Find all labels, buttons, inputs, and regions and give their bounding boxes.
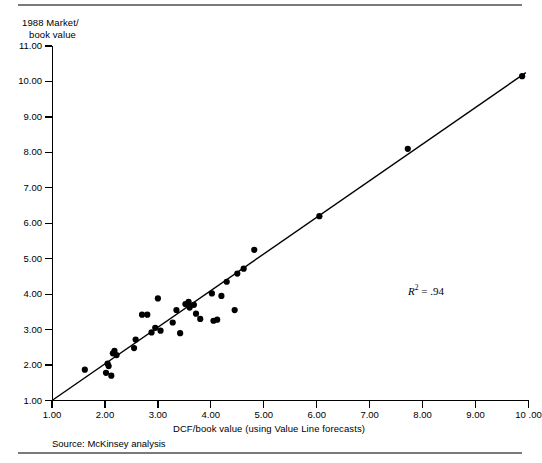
y-axis-tick xyxy=(45,187,52,188)
y-axis-tick-label: 3.00 xyxy=(0,325,42,335)
x-axis-tick-label: 5.00 xyxy=(255,410,274,420)
x-axis-tick-label: 7.00 xyxy=(360,410,379,420)
regression-trendline xyxy=(52,73,526,401)
r-squared-annotation: R2 = .94 xyxy=(408,283,444,297)
scatter-point xyxy=(193,311,199,317)
scatter-point xyxy=(316,213,322,219)
y-axis-tick xyxy=(45,223,52,224)
x-axis-tick xyxy=(475,401,476,408)
y-axis-tick xyxy=(45,294,52,295)
x-axis-tick-label: 2.00 xyxy=(96,410,115,420)
x-axis-tick xyxy=(422,401,423,408)
x-axis-tick xyxy=(104,401,105,408)
scatter-point xyxy=(251,247,257,253)
scatter-point xyxy=(131,345,137,351)
r-squared-symbol: R xyxy=(408,285,415,297)
y-axis-tick-label: 4.00 xyxy=(0,289,42,299)
x-axis-tick xyxy=(369,401,370,408)
scatter-point xyxy=(241,266,247,272)
y-axis-line xyxy=(52,46,53,401)
y-axis-tick-label: 10.00 xyxy=(0,76,42,86)
y-axis-tick-label: 11.00 xyxy=(0,41,42,51)
y-axis-title-line-1: 1988 Market/ xyxy=(22,17,79,29)
y-axis-tick xyxy=(45,329,52,330)
scatter-point xyxy=(405,146,411,152)
x-axis-tick-label: 1.00 xyxy=(43,410,62,420)
x-axis-line xyxy=(52,400,529,401)
scatter-point xyxy=(214,317,220,323)
y-axis-title: 1988 Market/book value xyxy=(22,17,79,41)
y-axis-tick-label: 8.00 xyxy=(0,147,42,157)
x-axis-tick-label: 9.00 xyxy=(466,410,485,420)
y-axis-tick xyxy=(45,116,52,117)
x-axis-tick xyxy=(51,401,52,408)
bottom-divider-rule xyxy=(18,452,522,454)
scatter-point xyxy=(113,352,119,358)
x-axis-tick-label: 4.00 xyxy=(202,410,221,420)
scatter-point xyxy=(103,370,109,376)
scatter-point xyxy=(185,299,191,305)
top-divider-rule xyxy=(18,4,522,6)
scatter-point xyxy=(170,319,176,325)
scatter-point xyxy=(155,295,161,301)
scatter-point xyxy=(133,336,139,342)
y-axis-tick-label: 7.00 xyxy=(0,183,42,193)
x-axis-tick xyxy=(528,401,529,408)
r-squared-value: = .94 xyxy=(418,285,443,297)
x-axis-title: DCF/book value (using Value Line forecas… xyxy=(0,423,538,435)
scatter-point xyxy=(210,318,216,324)
scatter-point xyxy=(108,373,114,379)
scatter-point xyxy=(218,293,224,299)
scatter-point xyxy=(234,270,240,276)
scatter-point xyxy=(148,329,154,335)
x-axis-tick xyxy=(210,401,211,408)
scatter-point xyxy=(191,302,197,308)
x-axis-tick xyxy=(263,401,264,408)
y-axis-tick-label: 2.00 xyxy=(0,360,42,370)
scatter-point xyxy=(144,312,150,318)
scatter-point xyxy=(187,305,193,311)
y-axis-tick xyxy=(45,45,52,46)
x-axis-tick xyxy=(316,401,317,408)
x-axis-tick xyxy=(157,401,158,408)
scatter-point xyxy=(224,279,230,285)
x-axis-tick-label: 3.00 xyxy=(149,410,168,420)
scatter-point xyxy=(104,361,110,367)
scatter-point xyxy=(82,367,88,373)
scatter-point xyxy=(139,312,145,318)
scatter-point xyxy=(173,307,179,313)
x-axis-tick-label: 8.00 xyxy=(413,410,432,420)
y-axis-tick xyxy=(45,152,52,153)
x-axis-tick-label: 10 .00 xyxy=(515,410,541,420)
scatter-point xyxy=(110,350,116,356)
y-axis-tick xyxy=(45,81,52,82)
x-axis-tick-label: 6.00 xyxy=(307,410,326,420)
y-axis-tick xyxy=(45,364,52,365)
scatter-point xyxy=(157,328,163,334)
y-axis-tick-label: 1.00 xyxy=(0,396,42,406)
y-axis-tick-label: 9.00 xyxy=(0,112,42,122)
scatter-point xyxy=(197,316,203,322)
y-axis-tick-label: 6.00 xyxy=(0,218,42,228)
scatter-point xyxy=(111,348,117,354)
scatter-point xyxy=(106,363,112,369)
source-note: Source: McKinsey analysis xyxy=(52,438,166,449)
scatter-point xyxy=(152,325,158,331)
scatter-point xyxy=(177,330,183,336)
scatter-point xyxy=(182,301,188,307)
y-axis-tick xyxy=(45,258,52,259)
scatter-point xyxy=(519,73,525,79)
scatter-point xyxy=(232,307,238,313)
scatter-point xyxy=(209,290,215,296)
y-axis-tick-label: 5.00 xyxy=(0,254,42,264)
